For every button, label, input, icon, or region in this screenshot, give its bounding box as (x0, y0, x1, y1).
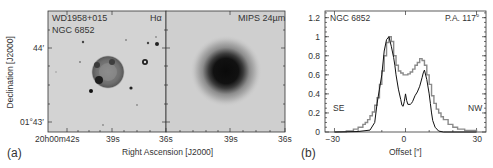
profile-plot-frame (325, 11, 486, 132)
y-tick-label: 1 (315, 33, 320, 42)
dec-tick-0143: 01°43′ (20, 118, 44, 127)
annot-se: SE (333, 104, 344, 113)
object-alt-name: NGC 6852 (52, 26, 95, 35)
annot-nw: NW (468, 104, 482, 113)
ra-tick-39-right: 39s (224, 135, 238, 144)
dec-axis-label: Declination [J2000] (6, 32, 15, 112)
profile-title: NGC 6852 (330, 14, 370, 23)
y-tick-label: 0.8 (308, 52, 320, 61)
ra-tick-42: 20h00m42s (35, 135, 79, 144)
profile-pa: P.A. 117° (445, 14, 479, 23)
panel-a-label: (a) (7, 146, 22, 160)
dec-tick-44: 44′ (33, 44, 44, 53)
ra-tick-39-left: 39s (106, 135, 120, 144)
object-name: WD1958+015 (52, 14, 107, 23)
y-tick-label: 0.4 (308, 90, 320, 99)
mips-blob (190, 35, 262, 107)
y-tick-label: 0.2 (308, 109, 320, 118)
x-tick-label: 30 (473, 135, 482, 144)
ra-tick-36-right: 36s (278, 135, 292, 144)
halpha-band-label: Hα (150, 14, 162, 23)
y-tick-label: 1.2 (308, 14, 320, 23)
mips-band-label: MIPS 24µm (238, 14, 285, 23)
x-tick-label: −30 (325, 135, 339, 144)
ra-tick-36-left: 36s (159, 135, 173, 144)
panel-b-label: (b) (301, 146, 316, 160)
y-tick-label: 0.6 (308, 71, 320, 80)
y-tick-label: 0 (315, 128, 320, 137)
x-tick-label: 0 (402, 135, 407, 144)
profile-xlabel: Offset [″] (389, 148, 422, 157)
ra-axis-label: Right Ascension [J2000] (122, 148, 213, 157)
